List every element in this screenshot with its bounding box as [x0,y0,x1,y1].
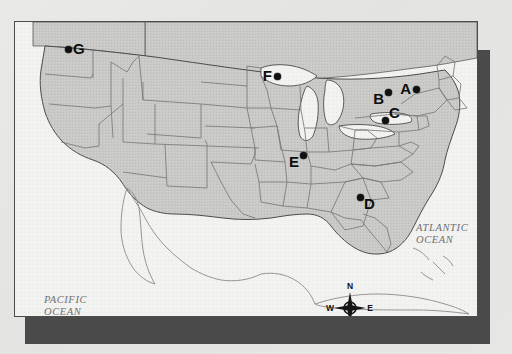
map-marker-label: A [400,81,411,96]
map-marker-dot-icon [413,86,420,93]
map-marker-label: G [73,41,85,56]
map-canvas[interactable]: PACIFIC OCEAN ATLANTIC OCEAN N S E W [14,21,478,317]
map-marker-dot-icon [274,73,281,80]
map-marker-dot-icon [65,46,72,53]
map-marker-label: D [364,196,375,211]
compass-rose: N S E W [324,281,376,317]
map-marker-label: B [373,91,384,106]
compass-west-label: W [326,303,335,313]
map-marker-label: E [289,154,299,169]
compass-north-label: N [347,281,353,291]
us-map-graphic [15,22,477,316]
map-marker-label: F [263,68,272,83]
map-marker-dot-icon [382,117,389,124]
map-marker-dot-icon [357,194,364,201]
compass-east-label: E [367,303,373,313]
map-marker-dot-icon [385,89,392,96]
map-marker-label: C [389,105,400,120]
map-marker-dot-icon [300,152,307,159]
